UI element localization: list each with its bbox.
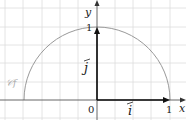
vector-j-arrow-icon (94, 27, 100, 34)
vector-i-arrow-icon (163, 97, 170, 103)
x-axis-label: x (179, 102, 186, 115)
y-axis-label: y (84, 6, 92, 19)
origin-label: 0 (88, 104, 94, 115)
curve-label: 𝒞f (6, 78, 18, 88)
coordinate-diagram: y 1 x 1 0 i j 𝒞f (0, 0, 186, 120)
y-tick-label: 1 (86, 22, 92, 33)
y-axis-arrow-icon (95, 0, 100, 6)
vector-j-label: j (81, 60, 88, 75)
x-tick-label: 1 (166, 104, 172, 115)
vector-i-label: i (128, 103, 132, 118)
